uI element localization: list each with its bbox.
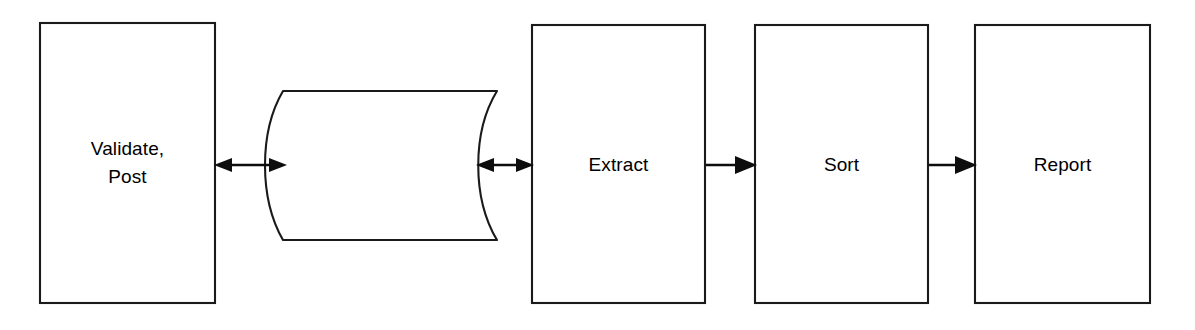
connector-sort-to-report xyxy=(929,156,977,174)
diagram-canvas-svg xyxy=(0,0,1195,330)
node-report[interactable] xyxy=(975,25,1150,303)
node-data-store[interactable] xyxy=(265,91,497,240)
node-extract[interactable] xyxy=(532,25,705,303)
connector-extract-to-sort xyxy=(706,156,757,174)
connector-data-store-to-extract xyxy=(476,158,534,172)
arrow-head-right xyxy=(735,156,757,174)
arrow-head-right xyxy=(955,156,977,174)
node-sort[interactable] xyxy=(755,25,928,303)
flow-diagram: Validate, Post Extract Sort Report xyxy=(0,0,1195,330)
arrow-head-left xyxy=(214,158,232,172)
node-validate-post[interactable] xyxy=(40,23,215,303)
